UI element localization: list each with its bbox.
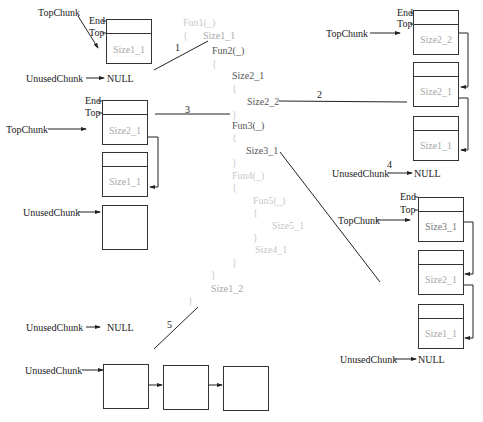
null-label: NULL [418,354,445,365]
code-brace: } [232,257,237,268]
null-label: NULL [107,73,134,84]
chunk-box: Size2_1 [418,250,464,295]
code-brace: { [253,207,258,218]
code-brace: } [253,232,258,243]
code-size2-1: Size2_1 [232,70,264,81]
chunk-header [103,153,147,167]
code-fun4: Fun4(_) [232,170,264,181]
step-2-label: 2 [317,89,322,100]
step-3-label: 3 [185,104,190,115]
chunk-header [419,305,463,319]
top-label: Top [397,18,412,29]
chunk-label: Size2_1 [414,86,458,97]
code-brace: } [232,157,237,168]
chunk-label: Size2_1 [419,274,463,285]
unused-chunk-label: UnusedChunk [25,365,82,376]
chunk-header [107,20,151,34]
chunk-header [414,63,458,77]
code-brace: { [232,182,237,193]
code-brace: { [232,132,237,143]
top-chunk-label: TopChunk [6,124,48,135]
code-fun3: Fun3(_) [232,120,264,131]
top-label: Top [89,27,104,38]
unused-chunk-label: UnusedChunk [332,168,389,179]
end-label: End [400,191,416,202]
chunk-label: Size1_1 [103,176,147,187]
code-fun1: Fun1(_) [183,17,215,28]
chunk-label: Size2_1 [103,125,147,136]
code-brace: } [232,109,237,120]
chunk-box: Size2_2 [413,10,459,55]
chunk-header [419,251,463,265]
chunk-box: Size1_1 [106,19,152,64]
step-4-label: 4 [387,159,392,170]
code-size2-2: Size2_2 [247,96,279,107]
code-size1-2: Size1_2 [211,283,243,294]
code-fun2: Fun2(_) [212,45,244,56]
code-brace: } [188,295,193,306]
chunk-header [419,198,463,212]
top-chunk-label: TopChunk [338,215,380,226]
step-5-label: 5 [167,319,172,330]
unused-chunk-label: UnusedChunk [26,322,83,333]
code-size4-1: Size4_1 [255,244,287,255]
unused-chunk-label: UnusedChunk [26,73,83,84]
chunk-label: Size3_1 [419,221,463,232]
code-brace: { [183,30,188,41]
unused-chunk-box [223,366,269,411]
chunk-box: Size1_1 [418,304,464,349]
top-chunk-label: TopChunk [326,28,368,39]
code-brace: { [232,83,237,94]
end-label: End [85,95,101,106]
chunk-box: Size1_1 [413,116,459,161]
chunk-label: Size1_1 [414,140,458,151]
chunk-label: Size1_1 [107,44,151,55]
code-size1-1: Size1_1 [203,30,235,41]
unused-chunk-box [102,205,148,250]
top-chunk-label: TopChunk [38,7,80,18]
code-brace: } [211,269,216,280]
chunk-box: Size3_1 [418,197,464,242]
chunk-label: Size2_2 [414,34,458,45]
null-label: NULL [414,168,441,179]
unused-chunk-box [103,364,149,409]
chunk-header [103,101,147,115]
code-size5-1: Size5_1 [272,220,304,231]
chunk-box: Size1_1 [102,152,148,197]
code-fun5: Fun5(_) [253,195,285,206]
chunk-header [414,11,458,25]
code-size3-1: Size3_1 [246,145,278,156]
code-brace: { [212,58,217,69]
step-1-label: 1 [175,42,180,53]
chunk-label: Size1_1 [419,328,463,339]
end-label: End [397,7,413,18]
end-label: End [89,15,105,26]
unused-chunk-box [163,365,209,410]
chunk-header [414,117,458,131]
chunk-box: Size2_1 [102,100,148,145]
top-label: Top [85,107,100,118]
chunk-box: Size2_1 [413,62,459,107]
unused-chunk-label: UnusedChunk [23,207,80,218]
top-label: Top [400,204,415,215]
unused-chunk-label: UnusedChunk [340,354,397,365]
null-label: NULL [107,322,134,333]
